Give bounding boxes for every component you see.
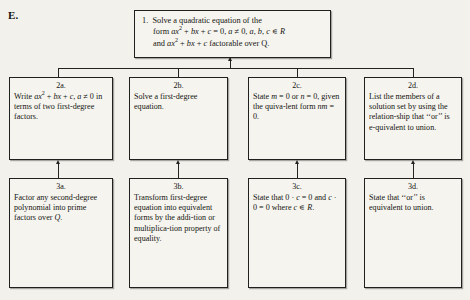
flowchart-node-3b: 3b. Transform first-degree equation into… xyxy=(129,178,228,288)
flowchart-node-2c: 2c. State m = 0 or n = 0, given the quiv… xyxy=(248,77,346,160)
node-1-line-1: 1. Solve a quadratic equation of the xyxy=(142,15,324,26)
node-3d-number: 3d. xyxy=(369,182,457,192)
edge-3b-to-2b xyxy=(178,164,179,178)
node-1-number: 1. xyxy=(142,16,148,25)
node-1-line-3: and ax2 + bx + c factorable over Q. xyxy=(142,38,324,49)
node-2a-text: Write ax2 + bx + c, a ≠ 0 in terms of tw… xyxy=(14,92,108,123)
arrowhead-to-node-2a xyxy=(56,160,60,164)
node-3c-number: 3c. xyxy=(253,182,341,192)
section-label: E. xyxy=(8,9,19,21)
flowchart-node-1: 1. Solve a quadratic equation of the for… xyxy=(134,10,331,58)
arrowhead-to-node-2d xyxy=(411,160,415,164)
node-3a-text: Factor any second-degree polynomial into… xyxy=(14,193,108,224)
edge-3d-to-2d xyxy=(413,164,414,178)
edge-2d-to-bus xyxy=(413,68,414,77)
flowchart-node-3a: 3a. Factor any second-degree polynomial … xyxy=(9,178,113,288)
edge-2c-to-bus xyxy=(297,68,298,77)
arrowhead-to-node-2c xyxy=(295,160,299,164)
node-2c-text: State m = 0 or n = 0, given the quiva-le… xyxy=(253,92,341,123)
node-2b-text: Solve a first-degree equation. xyxy=(134,92,223,113)
flowchart-node-2d: 2d. List the members of a solution set b… xyxy=(364,77,462,160)
edge-bus-row2 xyxy=(58,68,413,69)
flowchart-node-3c: 3c. State that 0 · c = 0 and c · 0 = 0 w… xyxy=(248,178,346,288)
node-2a-number: 2a. xyxy=(14,81,108,91)
diagram-canvas: E. 1. Solve a quadratic equation of the … xyxy=(0,0,470,300)
node-2c-number: 2c. xyxy=(253,81,341,91)
node-2b-number: 2b. xyxy=(134,81,223,91)
edge-3c-to-2c xyxy=(297,164,298,178)
node-1-text-1: Solve a quadratic equation of the xyxy=(150,16,262,25)
node-3b-text: Transform first-degree equation into equ… xyxy=(134,193,223,245)
edge-3a-to-2a xyxy=(58,164,59,178)
flowchart-node-2a: 2a. Write ax2 + bx + c, a ≠ 0 in terms o… xyxy=(9,77,113,160)
node-1-line-2: form ax2 + bx + c = 0, a ≠ 0, a, b, c ∊ … xyxy=(142,26,324,37)
node-3d-text: State that ‘‘or’’ is equivalent to union… xyxy=(369,193,457,214)
edge-2b-to-bus xyxy=(178,68,179,77)
flowchart-node-3d: 3d. State that ‘‘or’’ is equivalent to u… xyxy=(364,178,462,288)
node-2d-text: List the members of a solution set by us… xyxy=(369,92,457,134)
edge-2a-to-bus xyxy=(58,68,59,77)
arrowhead-to-node-2b xyxy=(176,160,180,164)
node-3b-number: 3b. xyxy=(134,182,223,192)
node-3a-number: 3a. xyxy=(14,182,108,192)
flowchart-node-2b: 2b. Solve a first-degree equation. xyxy=(129,77,228,160)
node-2d-number: 2d. xyxy=(369,81,457,91)
node-3c-text: State that 0 · c = 0 and c · 0 = 0 where… xyxy=(253,193,341,214)
arrowhead-to-node-1 xyxy=(228,57,232,61)
